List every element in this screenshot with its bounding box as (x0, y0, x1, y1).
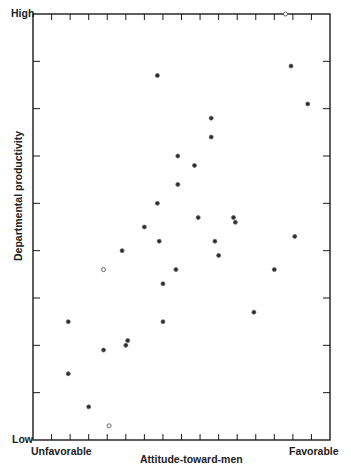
filled-data-point (176, 182, 180, 186)
filled-data-point (209, 116, 213, 120)
filled-data-point (233, 220, 237, 224)
x-axis-low-label: Unfavorable (31, 445, 92, 457)
x-axis-title: Attitude-toward-men (140, 453, 243, 465)
filled-data-point (66, 320, 70, 324)
y-axis-low-label: Low (12, 433, 33, 445)
filled-data-point (217, 253, 221, 257)
filled-data-point (161, 282, 165, 286)
filled-data-point (252, 310, 256, 314)
filled-data-point (66, 372, 70, 376)
filled-data-point (87, 405, 91, 409)
scatter-plot (0, 0, 351, 468)
filled-data-point (161, 320, 165, 324)
filled-data-point (142, 225, 146, 229)
y-axis-title: Departmental productivity (12, 141, 24, 261)
filled-data-point (209, 135, 213, 139)
filled-data-point (176, 154, 180, 158)
filled-data-point (126, 339, 130, 343)
filled-data-point (157, 239, 161, 243)
filled-data-point (155, 74, 159, 78)
filled-data-point (272, 268, 276, 272)
data-points (66, 12, 309, 428)
filled-data-point (231, 216, 235, 220)
filled-data-point (196, 216, 200, 220)
open-data-point (283, 12, 287, 16)
y-axis-high-label: High (11, 7, 34, 19)
filled-data-point (306, 102, 310, 106)
axis-ticks (33, 14, 330, 440)
open-data-point (107, 424, 111, 428)
plot-frame (33, 14, 330, 440)
filled-data-point (155, 201, 159, 205)
filled-data-point (174, 268, 178, 272)
filled-data-point (102, 348, 106, 352)
filled-data-point (120, 249, 124, 253)
x-axis-high-label: Favorable (289, 445, 339, 457)
open-data-point (102, 268, 106, 272)
filled-data-point (192, 163, 196, 167)
filled-data-point (289, 64, 293, 68)
filled-data-point (124, 343, 128, 347)
filled-data-point (293, 234, 297, 238)
filled-data-point (213, 239, 217, 243)
